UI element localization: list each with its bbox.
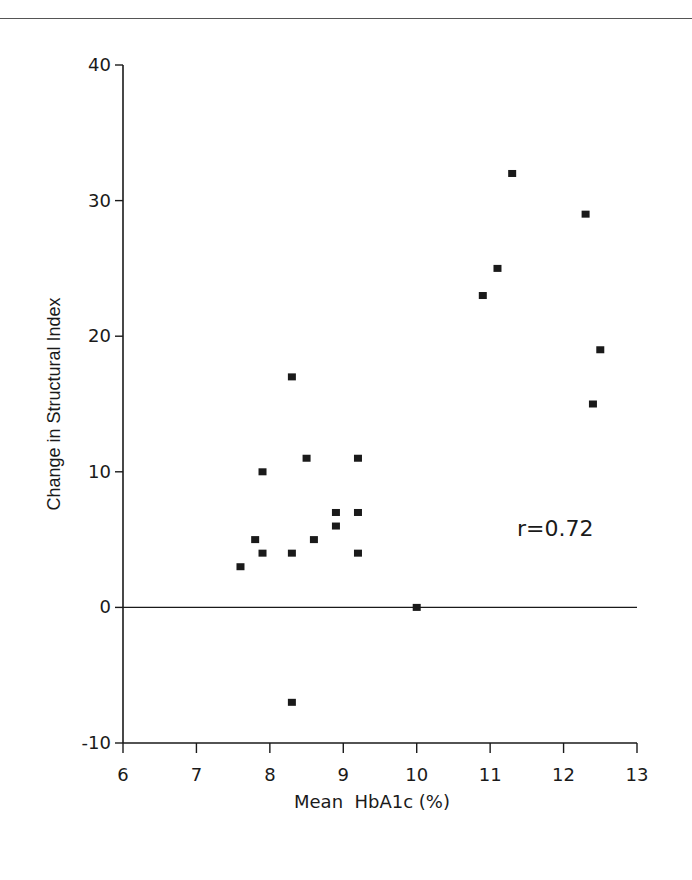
data-point xyxy=(354,455,362,462)
data-point xyxy=(354,509,362,516)
x-tick-label: 13 xyxy=(626,764,649,785)
data-point xyxy=(479,292,487,299)
data-point xyxy=(310,536,318,543)
x-axis-title: Mean HbA1c (%) xyxy=(294,791,450,812)
y-tick-label: 40 xyxy=(88,54,111,75)
axes: -10010203040678910111213 xyxy=(82,54,649,785)
x-tick-label: 9 xyxy=(338,764,349,785)
data-point xyxy=(413,604,421,611)
x-tick-label: 8 xyxy=(264,764,275,785)
y-axis-title: Change in Structural Index xyxy=(44,297,64,510)
data-point xyxy=(288,373,296,380)
data-point xyxy=(303,455,311,462)
x-tick-label: 6 xyxy=(117,764,128,785)
data-point xyxy=(493,265,501,272)
data-point xyxy=(332,509,340,516)
y-tick-label: 10 xyxy=(88,461,111,482)
data-point xyxy=(288,699,296,706)
y-tick-label: -10 xyxy=(82,732,111,753)
y-tick-label: 30 xyxy=(88,190,111,211)
data-point xyxy=(251,536,259,543)
data-point xyxy=(596,346,604,353)
x-tick-label: 12 xyxy=(552,764,575,785)
x-tick-label: 11 xyxy=(479,764,502,785)
data-point xyxy=(288,550,296,557)
data-point xyxy=(236,563,244,570)
data-point xyxy=(508,170,516,177)
x-tick-label: 7 xyxy=(191,764,202,785)
x-tick-label: 10 xyxy=(405,764,428,785)
y-tick-label: 20 xyxy=(88,325,111,346)
scatter-chart: -10010203040678910111213 r=0.72 Mean HbA… xyxy=(0,0,692,880)
data-point xyxy=(354,550,362,557)
data-point xyxy=(332,523,340,530)
data-point xyxy=(589,401,597,408)
data-point xyxy=(582,211,590,218)
correlation-annotation: r=0.72 xyxy=(517,516,593,541)
data-point xyxy=(259,468,267,475)
data-points xyxy=(236,170,604,706)
data-point xyxy=(259,550,267,557)
y-tick-label: 0 xyxy=(100,596,111,617)
